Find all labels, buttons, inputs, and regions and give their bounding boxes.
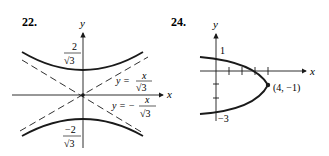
x-axis-label: x (309, 65, 315, 77)
lower-vertex-label: −2 √3 (63, 124, 81, 149)
y-intercept-bottom-label: −3 (218, 113, 229, 124)
vertex-label: (4, −1) (273, 82, 300, 94)
svg-text:x: x (141, 70, 147, 81)
asymptote-negative-label: y = − x √3 (111, 94, 156, 119)
y-axis-label: y (212, 18, 218, 30)
svg-text:√3: √3 (136, 82, 147, 93)
svg-text:−2: −2 (65, 124, 76, 135)
svg-text:√3: √3 (64, 138, 75, 149)
y-intercept-top-label: 1 (220, 45, 225, 56)
x-axis-label: x (166, 88, 172, 100)
figure-22: 22. y x 2 √3 −2 √3 y = x √3 (12, 15, 172, 149)
y-axis-label: y (79, 17, 85, 29)
svg-text:y =: y = (115, 75, 130, 86)
hyperbola-upper-branch (22, 52, 143, 70)
svg-text:√3: √3 (64, 55, 75, 66)
svg-text:x: x (144, 94, 150, 105)
svg-text:√3: √3 (140, 108, 151, 119)
svg-text:2: 2 (72, 41, 77, 52)
figure-24: 24. y x 1 −3 (4, −1) (171, 15, 315, 124)
figure-number: 24. (171, 15, 186, 29)
diagram-canvas: 22. y x 2 √3 −2 √3 y = x √3 (0, 0, 329, 156)
parabola-curve (200, 57, 268, 114)
origin-point (81, 93, 85, 97)
hyperbola-lower-branch (22, 119, 143, 136)
asymptote-positive-label: y = x √3 (115, 70, 152, 93)
figure-number: 22. (22, 15, 37, 29)
vertex-point (266, 83, 270, 87)
upper-vertex-label: 2 √3 (64, 41, 81, 66)
svg-text:y = −: y = − (111, 100, 135, 111)
